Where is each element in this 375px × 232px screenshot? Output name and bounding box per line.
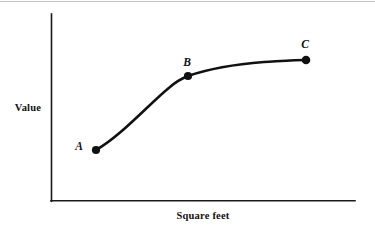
data-point-b-marker: [184, 72, 192, 80]
data-point-a-label: A: [74, 140, 83, 152]
data-point-c-marker: [302, 56, 311, 65]
value-curve: [96, 60, 306, 150]
data-point-b-label: B: [182, 56, 191, 68]
value-vs-square-feet-chart: A B C Value Square feet: [0, 0, 375, 232]
y-axis-title: Value: [15, 102, 41, 113]
data-point-c-label: C: [301, 38, 309, 50]
x-axis-title: Square feet: [176, 210, 229, 221]
chart-figure: A B C Value Square feet: [0, 0, 375, 232]
data-point-a-marker: [92, 146, 100, 154]
